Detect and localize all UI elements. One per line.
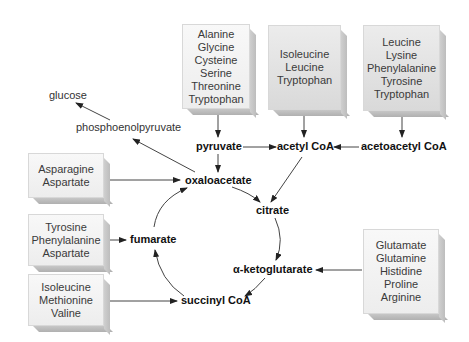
acetoacetyl-coa-label: acetoacetyl CoA [361,140,447,152]
arrow-pep-to-glucose [76,103,110,120]
amino-acid: Alanine [198,28,235,41]
citrate-label: citrate [256,204,289,216]
oxaloacetate-source-box: Asparagine Aspartate [28,153,104,198]
amino-acid: Lysine [386,49,417,62]
arrow-citrate-to-ketoglutarate [275,218,280,260]
oxaloacetate-label: oxaloacetate [185,174,252,186]
arrow-acetyl-coa-to-citrate [271,157,302,202]
amino-acid: Arginine [381,291,421,304]
amino-acid: Isoleucine [41,281,91,294]
ketoglutarate-source-box: Glutamate Glutamine Histidine Proline Ar… [363,229,439,314]
amino-acid: Isoleucine [280,48,330,61]
acetyl-coa-source-box: Isoleucine Leucine Tryptophan [268,25,341,110]
amino-acid: Asparagine [38,163,94,176]
amino-acid: Leucine [285,61,324,74]
phosphoenolpyruvate-label: phosphoenolpyruvate [76,121,181,133]
amino-acid: Valine [51,307,81,320]
succinyl-coa-source-box: Isoleucine Methionine Valine [28,274,104,326]
amino-acid: Histidine [380,265,422,278]
pyruvate-source-box: Alanine Glycine Cysteine Serine Threonin… [182,24,250,109]
alpha-ketoglutarate-label: α-ketoglutarate [233,263,313,275]
amino-acid: Phenylalanine [31,234,100,247]
amino-acid: Tyrosine [381,75,423,88]
pyruvate-label: pyruvate [196,140,242,152]
glucose-label: glucose [49,89,87,101]
amino-acid: Proline [384,278,418,291]
amino-acid: Leucine [382,36,421,49]
amino-acid: Tryptophan [188,93,243,106]
amino-acid: Glutamine [376,252,426,265]
amino-acid: Methionine [39,294,93,307]
amino-acid: Threonine [191,80,241,93]
amino-acid: Glutamate [376,239,427,252]
amino-acid: Glycine [198,41,235,54]
succinyl-coa-label: succinyl CoA [181,294,251,306]
arrow-succinyl-coa-to-fumarate [155,250,184,296]
fumarate-label: fumarate [130,233,176,245]
amino-acid: Tyrosine [45,221,87,234]
amino-acid: Tryptophan [277,74,332,87]
amino-acid: Aspartate [42,247,89,260]
amino-acid: Cysteine [195,54,238,67]
arrow-oxaloacetate-to-pep [133,139,195,172]
arrow-oxaloacetate-to-citrate [232,187,260,202]
fumarate-source-box: Tyrosine Phenylalanine Aspartate [28,214,104,266]
acetoacetyl-coa-source-box: Leucine Lysine Phenylalanine Tyrosine Tr… [363,25,440,111]
amino-acid: Phenylalanine [367,62,436,75]
amino-acid: Aspartate [42,176,89,189]
acetyl-coa-label: acetyl CoA [277,140,334,152]
amino-acid: Serine [200,67,232,80]
amino-acid: Tryptophan [374,88,429,101]
arrow-fumarate-to-oxaloacetate [154,188,187,227]
